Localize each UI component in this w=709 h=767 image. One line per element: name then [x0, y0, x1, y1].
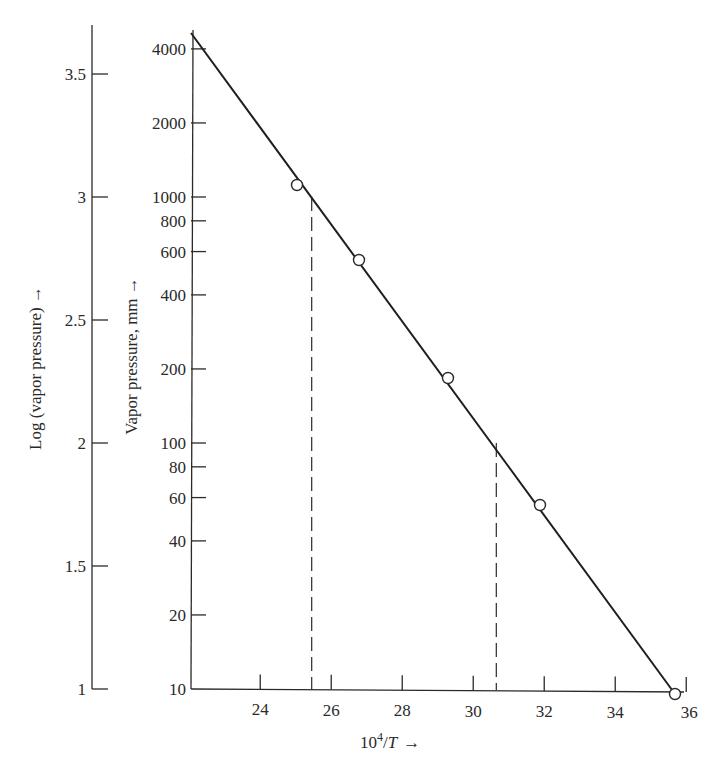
log-vapor-pressure-axis: 11.522.533.5: [65, 25, 108, 699]
x-tick-label: 28: [394, 701, 411, 720]
x-tick-label: 32: [536, 702, 553, 721]
y-tick-label: 20: [169, 606, 186, 625]
x-label-arrow: →: [403, 733, 420, 752]
y-tick-label: 600: [161, 243, 187, 262]
y-tick-label: 100: [161, 434, 187, 453]
secondary-y-axis-label: Log (vapor pressure) →: [26, 286, 45, 450]
y-tick-label: 60: [169, 489, 186, 508]
y-tick-label: 10: [169, 680, 186, 699]
x-tick-label: 36: [681, 703, 698, 722]
data-point-marker: [354, 255, 365, 266]
x-tick-label: 24: [252, 700, 270, 719]
x-label-T: T: [388, 733, 399, 752]
x-tick-label: 34: [607, 703, 625, 722]
data-point-marker: [292, 180, 303, 191]
y-tick-label: 200: [161, 360, 187, 379]
dashed-guides: [312, 197, 497, 690]
y-tick-label: 40: [169, 532, 186, 551]
fitted-line: [191, 33, 675, 694]
secondary-tick-label: 1.5: [65, 557, 86, 576]
x-label-base: 10: [360, 733, 377, 752]
secondary-tick-label: 2: [78, 434, 87, 453]
y-tick-label: 2000: [152, 114, 186, 133]
secondary-tick-label: 1: [78, 680, 87, 699]
x-axis-label: 104/T→: [360, 730, 420, 752]
x-tick-label: 30: [465, 702, 482, 721]
y-axis-label: Vapor pressure, mm →: [122, 277, 141, 435]
vapor-pressure-chart: 11.522.533.5 102040608010020040060080010…: [0, 0, 709, 767]
y-tick-label: 1000: [152, 188, 186, 207]
x-tick-label: 26: [323, 701, 340, 720]
y-tick-label: 80: [169, 458, 186, 477]
data-point-marker: [535, 500, 546, 511]
x-axis: 24262830323436: [191, 674, 698, 722]
secondary-tick-label: 2.5: [65, 311, 86, 330]
y-axis-line: [191, 30, 193, 689]
fit-line: [191, 33, 675, 694]
secondary-tick-label: 3: [78, 188, 87, 207]
y-tick-label: 800: [161, 212, 187, 231]
secondary-tick-label: 3.5: [65, 65, 86, 84]
data-point-marker: [670, 689, 681, 700]
y-tick-label: 400: [161, 286, 187, 305]
data-point-marker: [443, 373, 454, 384]
y-tick-label: 4000: [152, 40, 186, 59]
vapor-pressure-y-axis: 1020406080100200400600800100020004000: [152, 30, 206, 699]
x-axis-line: [191, 689, 684, 692]
